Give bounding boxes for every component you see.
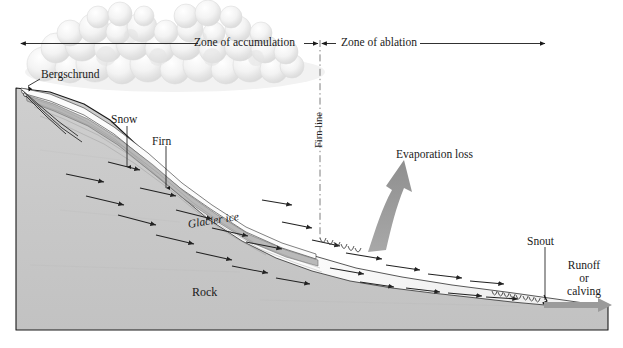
zone-of-accumulation-label: Zone of accumulation: [194, 36, 295, 49]
runoff-line-2: or: [555, 272, 613, 285]
firn-label: Firn: [152, 135, 171, 148]
firn-line-label: Firn line: [313, 112, 325, 148]
zone-of-ablation-label: Zone of ablation: [341, 36, 417, 49]
snout-label: Snout: [527, 235, 554, 248]
runoff-line-1: Runoff: [555, 259, 613, 272]
rock-label: Rock: [192, 286, 217, 299]
diagram-canvas: [0, 0, 623, 348]
evaporation-loss-label: Evaporation loss: [396, 148, 473, 161]
snow-label: Snow: [111, 113, 137, 126]
runoff-line-3: calving: [555, 285, 613, 298]
bergschrund-label: Bergschrund: [41, 68, 100, 81]
glacier-cross-section-diagram: · · · · · · ·: [0, 0, 623, 348]
runoff-or-calving-label: Runoff or calving: [555, 259, 613, 298]
